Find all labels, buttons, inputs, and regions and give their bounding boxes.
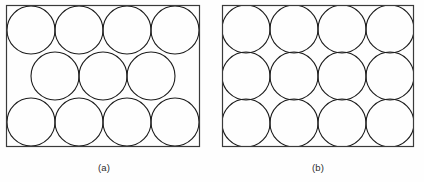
panel-a-drawing: [4, 3, 202, 149]
packed-circle: [270, 52, 318, 100]
packed-circle: [222, 52, 270, 100]
packed-circle: [222, 5, 270, 53]
packed-circle: [318, 5, 366, 53]
square-packing: [222, 5, 414, 147]
packed-circle: [318, 52, 366, 100]
packed-circle: [270, 99, 318, 147]
packed-circle: [270, 5, 318, 53]
packed-circle: [318, 99, 366, 147]
hexagonal-packing: [7, 6, 199, 146]
packed-circle: [366, 5, 414, 53]
packed-circle: [7, 98, 55, 146]
packed-circle: [7, 6, 55, 54]
packed-circle: [366, 99, 414, 147]
packed-circle: [151, 98, 199, 146]
panel-b-drawing: [220, 3, 416, 149]
packed-circle: [31, 52, 79, 100]
packed-circle: [103, 6, 151, 54]
panel-a: [4, 3, 202, 149]
panel-b: [220, 3, 416, 149]
packed-circle: [127, 52, 175, 100]
panel-a-caption: (a): [74, 162, 134, 174]
packed-circle: [103, 98, 151, 146]
packed-circle: [151, 6, 199, 54]
packed-circle: [222, 99, 270, 147]
packed-circle: [55, 98, 103, 146]
panel-b-caption: (b): [288, 162, 348, 174]
packed-circle: [55, 6, 103, 54]
packed-circle: [366, 52, 414, 100]
figure-root: (a) (b): [0, 0, 424, 182]
packed-circle: [79, 52, 127, 100]
